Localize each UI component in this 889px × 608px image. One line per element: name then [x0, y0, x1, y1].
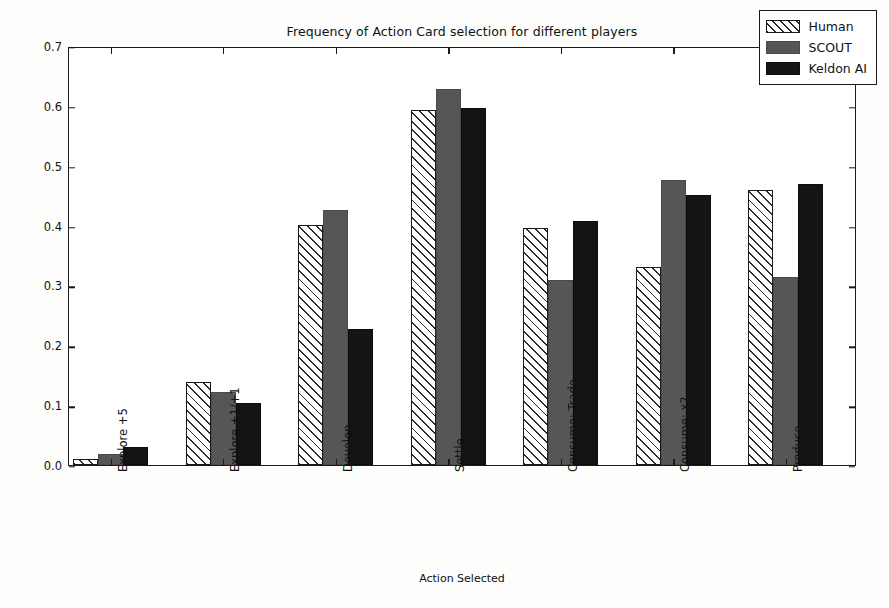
y-tick-mark: [849, 406, 855, 407]
bar-keldon: [798, 184, 823, 465]
x-tick-mark: [223, 459, 224, 465]
x-tick-mark: [448, 459, 449, 465]
x-tick-mark: [336, 48, 337, 54]
bar-human: [73, 459, 98, 465]
x-tick-label: Develop: [341, 425, 355, 472]
y-tick-mark: [849, 167, 855, 168]
x-tick-mark: [673, 48, 674, 54]
y-tick-label: 0.0: [22, 459, 62, 473]
x-axis-label: Action Selected: [68, 572, 856, 585]
legend-label-keldon: Keldon AI: [809, 61, 867, 76]
y-tick-label: 0.2: [22, 339, 62, 353]
y-tick-mark: [69, 167, 75, 168]
x-tick-mark: [786, 459, 787, 465]
y-tick-mark: [849, 347, 855, 348]
bar-human: [298, 225, 323, 465]
y-tick-mark: [69, 466, 75, 467]
y-tick-mark: [69, 47, 75, 48]
bar-human: [186, 382, 211, 465]
bar-scout: [436, 89, 461, 465]
bar-human: [411, 110, 436, 465]
y-tick-label: 0.5: [22, 160, 62, 174]
plot-area: [68, 47, 856, 466]
bar-human: [748, 190, 773, 465]
chart-legend: Human SCOUT Keldon AI: [759, 10, 877, 85]
y-tick-label: 0.7: [22, 40, 62, 54]
bar-human: [523, 228, 548, 465]
legend-swatch-keldon-icon: [766, 62, 800, 75]
y-tick-mark: [849, 466, 855, 467]
bar-human: [636, 267, 661, 465]
y-tick-label: 0.4: [22, 220, 62, 234]
y-tick-mark: [69, 107, 75, 108]
y-tick-mark: [849, 227, 855, 228]
y-tick-mark: [69, 406, 75, 407]
legend-label-human: Human: [809, 19, 854, 34]
y-tick-label: 0.6: [22, 100, 62, 114]
x-tick-mark: [223, 48, 224, 54]
legend-item: SCOUT: [766, 37, 867, 58]
x-tick-mark: [561, 48, 562, 54]
x-tick-label: Explore +5: [116, 408, 130, 472]
legend-item: Keldon AI: [766, 58, 867, 79]
y-tick-mark: [849, 287, 855, 288]
x-tick-mark: [561, 459, 562, 465]
legend-label-scout: SCOUT: [809, 40, 852, 55]
bar-keldon: [461, 108, 486, 465]
x-tick-mark: [111, 459, 112, 465]
y-tick-mark: [69, 227, 75, 228]
y-tick-label: 0.3: [22, 279, 62, 293]
x-tick-mark: [673, 459, 674, 465]
x-tick-label: Produce: [791, 426, 805, 472]
x-tick-label: Explore +1/+1: [228, 387, 242, 472]
chart-title: Frequency of Action Card selection for d…: [68, 24, 856, 39]
x-tick-label: Settle: [453, 438, 467, 472]
y-tick-mark: [849, 107, 855, 108]
legend-swatch-scout-icon: [766, 41, 800, 54]
y-tick-mark: [69, 347, 75, 348]
chart-figure: Frequency of Action Card selection for d…: [0, 0, 889, 608]
x-tick-mark: [336, 459, 337, 465]
y-tick-label: 0.1: [22, 399, 62, 413]
x-tick-mark: [111, 48, 112, 54]
x-tick-label: Consume: x2: [678, 396, 692, 472]
x-tick-mark: [448, 48, 449, 54]
x-tick-label: Consume: Trade: [566, 379, 580, 472]
y-tick-mark: [69, 287, 75, 288]
plot-inner: [69, 48, 855, 465]
legend-swatch-human-icon: [766, 20, 800, 33]
legend-item: Human: [766, 16, 867, 37]
